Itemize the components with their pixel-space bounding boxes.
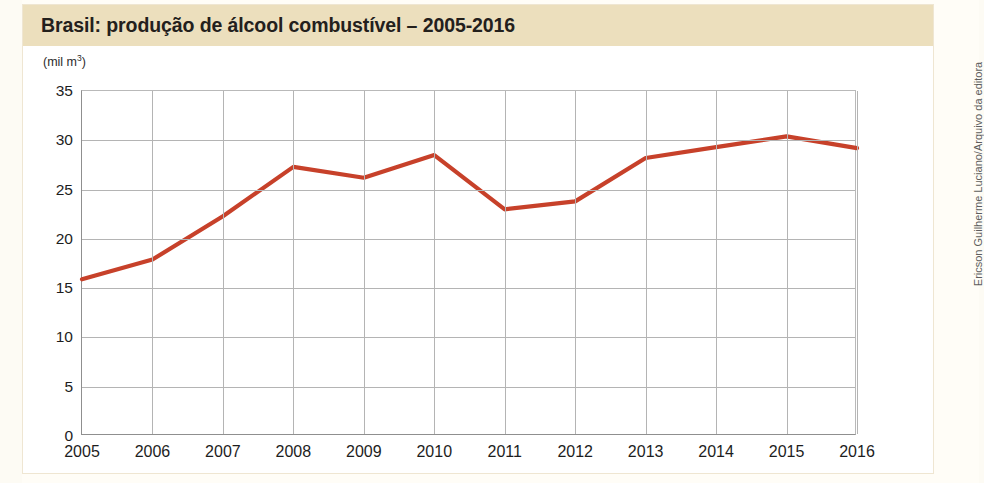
gridline-vertical [223, 91, 224, 434]
image-credit-text: Ericson Guilherme Luciano/Arquivo da edi… [972, 59, 984, 289]
plot-area: 0510152025303520052006200720082009201020… [81, 90, 856, 435]
y-axis-tick-label: 10 [56, 328, 73, 346]
gridline-vertical [434, 91, 435, 434]
x-axis-tick-label: 2016 [839, 443, 875, 461]
x-axis-tick-label: 2011 [488, 443, 522, 461]
gridline-vertical [716, 91, 717, 434]
series-line [82, 136, 857, 279]
x-axis-tick-label: 2015 [769, 443, 805, 461]
y-axis-tick-label: 35 [56, 82, 73, 100]
gridline-vertical [575, 91, 576, 434]
gridline-vertical [505, 91, 506, 434]
gridline-vertical [787, 91, 788, 434]
y-axis-tick-label: 25 [56, 180, 73, 198]
x-axis-tick-label: 2006 [135, 443, 171, 461]
gridline-horizontal [82, 387, 855, 388]
gridline-vertical [293, 91, 294, 434]
y-axis-tick-label: 20 [56, 229, 73, 247]
gridline-horizontal [82, 288, 855, 289]
x-axis-tick-label: 2008 [276, 443, 312, 461]
gridline-horizontal [82, 337, 855, 338]
plot-area-wrapper: 0510152025303520052006200720082009201020… [23, 5, 933, 473]
y-axis-tick-label: 15 [56, 279, 73, 297]
x-axis-tick-label: 2007 [205, 443, 241, 461]
y-axis-tick-label: 5 [64, 377, 73, 395]
gridline-horizontal [82, 239, 855, 240]
left-margin-bleed: ca do :: [0, 0, 22, 483]
gridline-vertical [364, 91, 365, 434]
y-axis-tick-label: 0 [64, 427, 73, 445]
gridline-vertical [152, 91, 153, 434]
y-axis-tick-label: 30 [56, 131, 73, 149]
x-axis-tick-label: 2009 [346, 443, 382, 461]
image-credit: Ericson Guilherme Luciano/Arquivo da edi… [951, 0, 977, 483]
x-axis-tick-label: 2012 [557, 443, 593, 461]
gridline-vertical [857, 91, 858, 434]
x-axis-tick-label: 2013 [628, 443, 664, 461]
gridline-horizontal [82, 190, 855, 191]
x-axis-tick-label: 2014 [698, 443, 734, 461]
x-axis-tick-label: 2010 [416, 443, 452, 461]
chart-figure: Brasil: produção de álcool combustível –… [22, 4, 934, 474]
x-axis-tick-label: 2005 [64, 443, 100, 461]
gridline-vertical [646, 91, 647, 434]
line-series-alcohol-production [82, 91, 857, 436]
gridline-horizontal [82, 140, 855, 141]
